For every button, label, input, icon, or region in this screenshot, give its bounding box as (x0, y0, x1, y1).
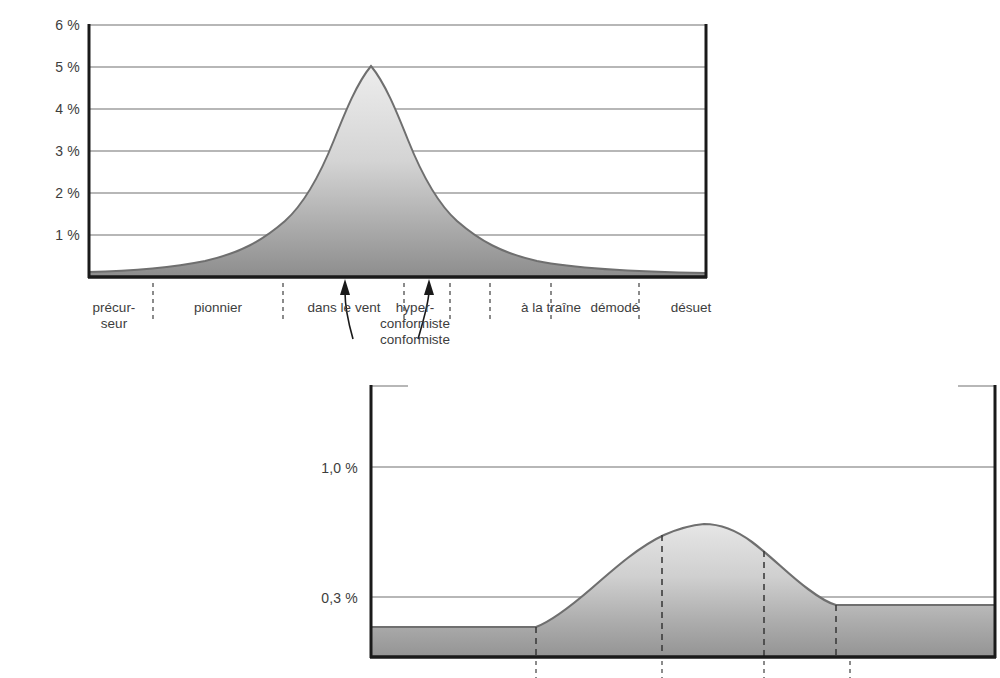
top-xcat-pionnier: pionnier (158, 300, 278, 316)
bottom-chart-plot (280, 375, 1000, 678)
top-xcat-hyper-conformiste: hyper- conformiste (325, 300, 505, 332)
top-xcat-precurseur-line2: seur (101, 316, 127, 331)
bottom-axis-ticks (536, 661, 850, 678)
top-xcat-precurseur: précur- seur (78, 300, 150, 332)
top-xcat-pionnier-line1: pionnier (194, 300, 242, 315)
top-chart-figure: 6 % 5 % 4 % 3 % 2 % 1 % (0, 0, 760, 360)
top-area-fill (88, 66, 707, 277)
top-xcat-conformiste-line1: conformiste (380, 332, 450, 347)
bottom-chart-figure: 1,0 % 0,3 % (280, 375, 1000, 678)
top-xcat-hyper-conformiste-line1: hyper- (396, 300, 434, 315)
top-xcat-desuet: désuet (630, 300, 752, 316)
top-xcat-precurseur-line1: précur- (93, 300, 136, 315)
top-xcat-conformiste: conformiste (325, 332, 505, 348)
top-xcat-desuet-line1: désuet (671, 300, 712, 315)
bottom-area-fill (370, 524, 996, 657)
top-xcat-hyper-conformiste-line2: conformiste (380, 316, 450, 331)
